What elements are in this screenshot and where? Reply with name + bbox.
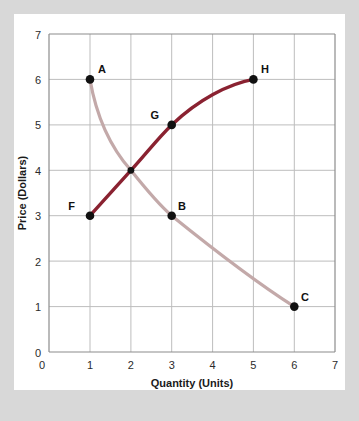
y-tick-label-4: 4 — [35, 165, 41, 177]
x-tick-label-7: 7 — [332, 359, 338, 371]
point-marker-b[interactable] — [167, 211, 176, 220]
x-tick-label-4: 4 — [210, 359, 216, 371]
y-tick-label-6: 6 — [35, 74, 41, 86]
y-tick-label-7: 7 — [35, 29, 41, 41]
point-label-b: B — [178, 200, 186, 212]
point-marker-a[interactable] — [86, 75, 95, 84]
x-tick-label-2: 2 — [128, 359, 134, 371]
point-marker-f[interactable] — [86, 211, 95, 220]
y-axis-title: Price (Dollars) — [16, 155, 28, 230]
data-point-markers — [86, 75, 299, 311]
point-marker-g[interactable] — [167, 121, 176, 130]
point-label-g: G — [150, 109, 159, 121]
x-tick-label-5: 5 — [250, 359, 256, 371]
grid-horizontal — [49, 79, 335, 306]
point-marker-c[interactable] — [290, 302, 299, 311]
point-label-f: F — [68, 200, 75, 212]
point-label-c: C — [301, 291, 309, 303]
y-tick-label-2: 2 — [35, 256, 41, 268]
equilibrium-marker[interactable] — [127, 167, 134, 174]
x-tick-label-3: 3 — [169, 359, 175, 371]
x-axis-title: Quantity (Units) — [151, 377, 234, 389]
y-tick-label-5: 5 — [35, 119, 41, 131]
chart-svg: A B C F G H 0 1 2 3 4 5 6 7 0 1 2 3 4 5 … — [0, 0, 359, 421]
y-tick-label-3: 3 — [35, 210, 41, 222]
demand-curve — [90, 79, 294, 306]
x-tick-label-6: 6 — [291, 359, 297, 371]
grid-vertical — [90, 34, 294, 352]
y-tick-label-1: 1 — [35, 301, 41, 313]
x-tick-label-1: 1 — [87, 359, 93, 371]
point-label-h: H — [261, 63, 269, 75]
point-marker-h[interactable] — [249, 75, 258, 84]
x-tick-label-0: 0 — [39, 359, 45, 371]
point-label-a: A — [98, 63, 106, 75]
supply-demand-chart: A B C F G H 0 1 2 3 4 5 6 7 0 1 2 3 4 5 … — [0, 0, 359, 421]
y-tick-label-0: 0 — [35, 347, 41, 359]
